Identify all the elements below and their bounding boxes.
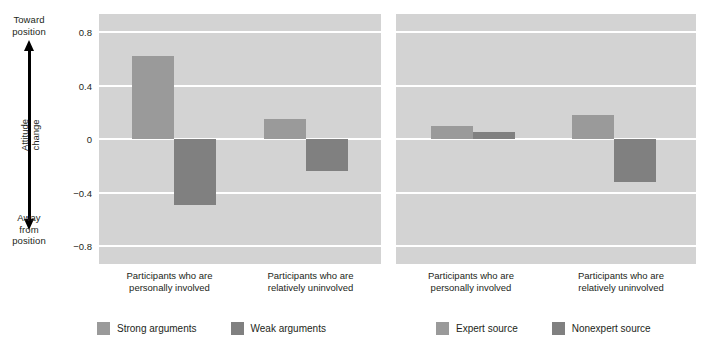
legend-source: Expert sourceNonexpert source: [436, 320, 651, 336]
y-axis-bottom-caption-line2: from: [0, 224, 58, 236]
legend-item[interactable]: Strong arguments: [97, 322, 197, 335]
chart-panel-arguments: [99, 14, 381, 264]
y-axis-title-line1: Attitude: [19, 119, 30, 151]
y-tick-label: −0.4: [73, 187, 92, 198]
group-label-line2: personally involved: [396, 282, 546, 294]
y-tick-label: −0.8: [73, 241, 92, 252]
plot-area-arguments: [99, 14, 381, 264]
y-tick-label: 0.8: [79, 27, 92, 38]
legend-item[interactable]: Nonexpert source: [552, 322, 651, 335]
y-axis-top-caption: Toward position: [0, 14, 58, 37]
legend-label: Weak arguments: [251, 323, 326, 334]
gridline: [396, 245, 696, 247]
legend-item[interactable]: Expert source: [436, 322, 518, 335]
group-label-line1: Participants who are: [546, 270, 696, 282]
y-axis-bottom-caption: Away from position: [0, 212, 58, 247]
group-label: Participants who arepersonally involved: [99, 270, 240, 294]
y-axis-bottom-caption-line1: Away: [0, 212, 58, 224]
legend-arguments: Strong argumentsWeak arguments: [97, 320, 326, 336]
gridline: [396, 31, 696, 33]
gridline: [396, 192, 696, 194]
y-axis-top-caption-line2: position: [0, 26, 58, 38]
y-axis-title-line2: change: [30, 119, 41, 151]
legend-swatch-icon: [97, 322, 110, 335]
bar: [572, 115, 614, 139]
group-label-line2: personally involved: [99, 282, 240, 294]
legend-swatch-icon: [231, 322, 244, 335]
plot-area-source: [396, 14, 696, 264]
group-labels-source: Participants who arepersonally involvedP…: [396, 270, 696, 300]
legend-label: Strong arguments: [117, 323, 197, 334]
group-labels-arguments: Participants who arepersonally involvedP…: [99, 270, 381, 300]
attitude-change-figure: Toward position Attitude change Away fro…: [0, 0, 711, 354]
gridline: [99, 192, 381, 194]
legend-item[interactable]: Weak arguments: [231, 322, 326, 335]
y-tick-label: 0: [87, 134, 92, 145]
y-axis-annotation: Toward position Attitude change Away fro…: [0, 8, 58, 260]
y-axis-title: Attitude change: [19, 119, 41, 151]
group-label-line1: Participants who are: [396, 270, 546, 282]
bar: [132, 56, 174, 139]
bar: [306, 139, 348, 171]
gridline: [99, 31, 381, 33]
chart-panel-source: [396, 14, 696, 264]
double-arrow-icon: Attitude change: [29, 40, 30, 230]
bar: [473, 132, 515, 139]
legend-label: Expert source: [456, 323, 518, 334]
group-label: Participants who arerelatively uninvolve…: [546, 270, 696, 294]
y-axis-tick-labels: 0.80.40−0.4−0.8: [58, 8, 96, 260]
group-label: Participants who arepersonally involved: [396, 270, 546, 294]
group-label-line2: relatively uninvolved: [546, 282, 696, 294]
y-axis-bottom-caption-line3: position: [0, 235, 58, 247]
legend-swatch-icon: [436, 322, 449, 335]
bar: [431, 126, 473, 139]
group-label-line1: Participants who are: [99, 270, 240, 282]
group-label-line1: Participants who are: [240, 270, 381, 282]
legend-label: Nonexpert source: [572, 323, 651, 334]
group-label: Participants who arerelatively uninvolve…: [240, 270, 381, 294]
y-axis-top-caption-line1: Toward: [0, 14, 58, 26]
bar: [264, 119, 306, 139]
bar: [174, 139, 216, 205]
group-label-line2: relatively uninvolved: [240, 282, 381, 294]
gridline: [396, 85, 696, 87]
legend-swatch-icon: [552, 322, 565, 335]
gridline: [99, 245, 381, 247]
bar: [614, 139, 656, 182]
y-tick-label: 0.4: [79, 80, 92, 91]
